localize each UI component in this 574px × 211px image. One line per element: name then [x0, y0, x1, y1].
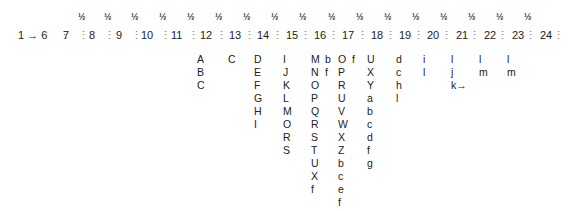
letter: B: [197, 66, 205, 79]
letter: f: [352, 53, 355, 66]
axis-number: 12: [200, 29, 212, 41]
letter: C: [228, 53, 236, 66]
letter: i: [423, 53, 425, 66]
letter: C: [197, 79, 205, 92]
separator: ⋮: [244, 29, 255, 42]
letter: M: [283, 105, 292, 118]
letter: Y: [367, 79, 375, 92]
fraction-mark: ½: [104, 12, 112, 22]
letter: M: [311, 53, 320, 66]
letter: g: [338, 209, 348, 211]
letter: K: [283, 79, 292, 92]
letter: G: [254, 92, 262, 105]
separator: ⋮: [525, 29, 536, 42]
fraction-mark: ½: [78, 12, 86, 22]
letter: O: [338, 53, 348, 66]
axis-number: 20: [427, 29, 439, 41]
letter-column: lm: [507, 53, 516, 79]
letter: R: [338, 79, 348, 92]
letter: X: [338, 131, 348, 144]
letter: E: [254, 66, 262, 79]
axis-number: 10: [141, 29, 153, 41]
letter: l: [451, 53, 467, 66]
letter: e: [338, 183, 348, 196]
separator: ⋮: [78, 29, 89, 42]
letter: b: [338, 157, 348, 170]
letter-column: ABC: [197, 53, 205, 92]
letter: O: [283, 118, 292, 131]
start-label: 1 → 6: [18, 29, 47, 41]
letter-column: IJKLMORS: [283, 53, 292, 157]
letter: j: [451, 66, 467, 79]
letter: c: [338, 170, 348, 183]
letter-column: bf: [325, 53, 331, 79]
letter: S: [283, 144, 292, 157]
letter: m: [507, 66, 516, 79]
letter: Q: [311, 105, 320, 118]
axis-number: 21: [456, 29, 468, 41]
axis-number: 19: [399, 29, 411, 41]
letter-column: lm: [479, 53, 488, 79]
letter: H: [254, 105, 262, 118]
axis-number: 14: [257, 29, 269, 41]
letter: b: [325, 53, 331, 66]
letter-column: il: [423, 53, 425, 79]
letter: l: [423, 66, 425, 79]
fraction-mark: ½: [496, 12, 504, 22]
letter: f: [367, 144, 375, 157]
letter: l: [396, 92, 402, 105]
letter: X: [311, 170, 320, 183]
letter-column: DEFGHI: [254, 53, 262, 131]
axis-number: 16: [314, 29, 326, 41]
separator: ⋮: [441, 29, 452, 42]
separator: ⋮: [188, 29, 199, 42]
separator: ⋮: [272, 29, 283, 42]
letter: S: [311, 131, 320, 144]
axis-number: 18: [371, 29, 383, 41]
separator: ⋮: [469, 29, 480, 42]
letter: U: [367, 53, 375, 66]
letter: c: [367, 118, 375, 131]
letter-column: f: [352, 53, 355, 66]
separator: ⋮: [300, 29, 311, 42]
axis-number: 23: [512, 29, 524, 41]
fraction-mark: ½: [468, 12, 476, 22]
letter: R: [283, 131, 292, 144]
letter: f: [311, 183, 320, 196]
axis-number: 7: [63, 29, 69, 41]
letter: V: [338, 105, 348, 118]
fraction-mark: ½: [271, 12, 279, 22]
letter-column: dchl: [396, 53, 402, 105]
fraction-mark: ½: [524, 12, 532, 22]
letter: I: [254, 118, 262, 131]
letter: D: [254, 53, 262, 66]
letter: R: [311, 118, 320, 131]
fraction-mark: ½: [328, 12, 336, 22]
fraction-mark: ½: [159, 12, 167, 22]
separator: ⋮: [553, 29, 564, 42]
axis-number: 22: [484, 29, 496, 41]
separator: ⋮: [413, 29, 424, 42]
letter: J: [283, 66, 292, 79]
letter: F: [254, 79, 262, 92]
letter: k→: [451, 79, 467, 92]
character-grid: 1 → 6 ⋮⋮⋮⋮⋮⋮⋮⋮⋮⋮⋮⋮⋮⋮⋮⋮⋮⋮⋮789101112131415…: [0, 0, 574, 211]
separator: ⋮: [104, 29, 115, 42]
fraction-mark: ½: [356, 12, 364, 22]
letter: d: [367, 131, 375, 144]
letter: P: [338, 66, 348, 79]
axis-number: 8: [89, 29, 95, 41]
letter: h: [396, 79, 402, 92]
letter: g: [367, 157, 375, 170]
letter: l: [507, 53, 516, 66]
letter: f: [325, 66, 331, 79]
letter: l: [479, 53, 488, 66]
letter: N: [311, 66, 320, 79]
letter-column: C: [228, 53, 236, 66]
fraction-mark: ½: [440, 12, 448, 22]
axis-number: 17: [342, 29, 354, 41]
letter-column: MNOPQRSTUXf: [311, 53, 320, 196]
separator: ⋮: [160, 29, 171, 42]
letter: U: [338, 92, 348, 105]
letter: W: [338, 118, 348, 131]
